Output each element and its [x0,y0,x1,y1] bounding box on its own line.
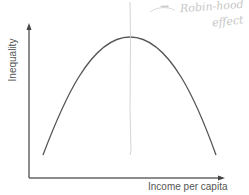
pencil-peak-line [130,2,131,155]
y-axis-label-wrap: Inequality [2,30,22,90]
x-axis-label: Income per capita [148,181,228,192]
y-axis-label: Inequality [7,39,18,82]
inverted-u-curve [43,37,216,155]
annotation-arrow-icon: ⇝ [160,0,169,13]
x-axis-arrowhead-icon [218,176,225,181]
diagram-canvas [0,0,249,195]
y-axis-arrowhead-icon [27,23,32,30]
